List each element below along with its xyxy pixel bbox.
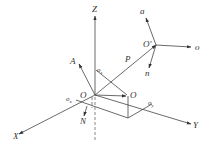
tool-axis-o-label: o [195, 42, 200, 52]
tool-axis-o [156, 45, 191, 47]
z-axis-label: Z [92, 4, 98, 14]
vector-a-label: A [69, 56, 76, 66]
ox-label: ox [66, 95, 73, 104]
projection-point-label: O [130, 90, 137, 100]
origin-label: O [80, 90, 87, 100]
tool-axis-n-label: n [145, 68, 150, 78]
x-axis [19, 95, 95, 134]
x-axis-label: X [12, 131, 19, 141]
coordinate-frame-diagram: Z X Y O A P N O oz ox oy O' a o n [0, 0, 213, 144]
vector-p-label: P [124, 54, 131, 64]
tool-origin-label: O' [143, 39, 152, 49]
y-axis-label: Y [193, 120, 199, 130]
projection-arrow [95, 95, 126, 96]
diagram-canvas: Z X Y O A P N O oz ox oy O' a o n [0, 0, 213, 144]
vector-n-arrow [84, 106, 87, 116]
vector-n-label: N [79, 116, 87, 126]
tool-axis-a-label: a [140, 6, 145, 16]
oy-label: oy [148, 99, 155, 108]
oz-label: oz [97, 66, 103, 75]
